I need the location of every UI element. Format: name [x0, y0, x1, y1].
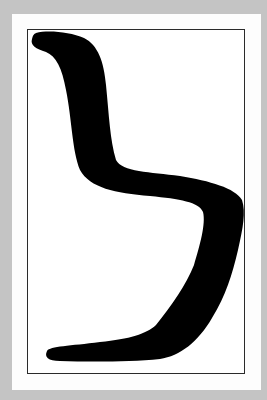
- chair-silhouette: [32, 32, 244, 362]
- chair-silhouette-illustration: [0, 0, 267, 400]
